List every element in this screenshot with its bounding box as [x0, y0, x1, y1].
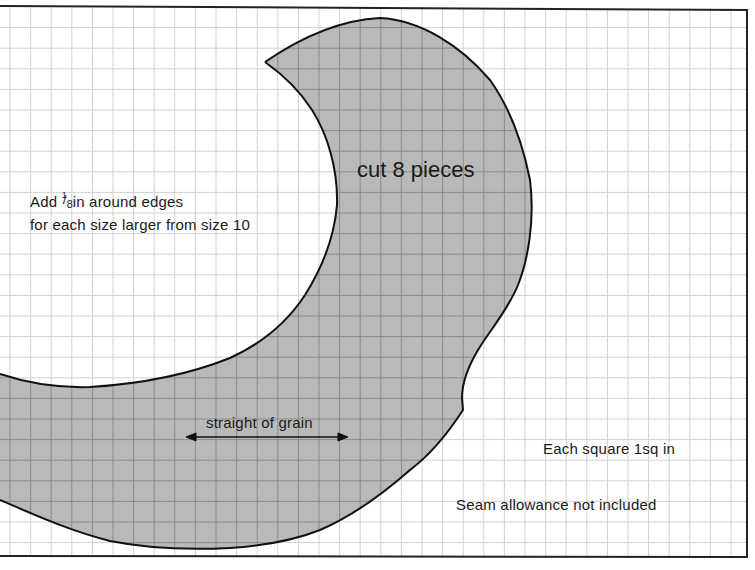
size-note-suffix: in around edges — [73, 193, 184, 210]
grain-label: straight of grain — [206, 414, 313, 431]
size-note-line2: for each size larger from size 10 — [30, 216, 250, 233]
size-note-prefix: Add — [30, 193, 57, 210]
seam-allowance-note: Seam allowance not included — [456, 496, 657, 513]
scale-note: Each square 1sq in — [543, 440, 675, 457]
size-note-line1: Add 1 / 8 in around edges — [30, 193, 183, 210]
cut-pieces-label: cut 8 pieces — [357, 157, 474, 183]
pattern-sheet — [0, 0, 755, 570]
fraction-one-eighth: 1 / 8 — [62, 193, 73, 209]
